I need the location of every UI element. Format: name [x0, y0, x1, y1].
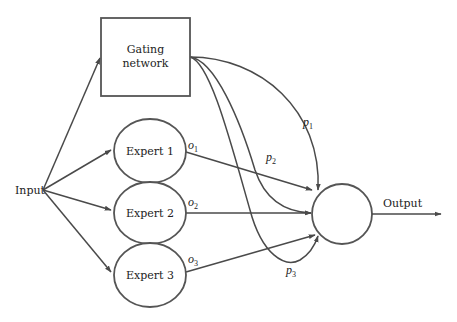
- output-label: Output: [383, 197, 423, 210]
- expert-2-label: Expert 2: [126, 207, 174, 220]
- arrow-input-to-expert-3: [43, 190, 111, 272]
- p3-label: p3: [285, 263, 296, 279]
- expert-2: Expert 2: [114, 182, 186, 244]
- combiner-circle: [312, 184, 372, 244]
- expert-1: Expert 1: [114, 119, 186, 183]
- input-label: Input: [15, 184, 46, 197]
- arrow-input-to-expert-2: [43, 190, 111, 210]
- gating-label-line1: Gating: [127, 43, 164, 56]
- arrow-input-to-gating: [43, 58, 100, 190]
- expert-3-label: Expert 3: [126, 269, 174, 282]
- o1-label: o1: [188, 138, 198, 154]
- moe-diagram: Input Gating network Expert 1 Expert 2 E…: [0, 0, 457, 322]
- gating-label-line2: network: [123, 57, 169, 70]
- o2-label: o2: [188, 195, 198, 211]
- p1-label: p1: [302, 115, 313, 131]
- arrow-expert-3-to-combiner: [186, 235, 315, 272]
- gate-curve-p1: [190, 57, 318, 190]
- expert-3: Expert 3: [114, 243, 186, 307]
- o3-label: o3: [188, 252, 198, 268]
- arrow-expert-1-to-combiner: [186, 152, 312, 190]
- arrow-input-to-expert-1: [43, 150, 111, 190]
- expert-1-label: Expert 1: [126, 145, 174, 158]
- p2-label: p2: [265, 150, 276, 166]
